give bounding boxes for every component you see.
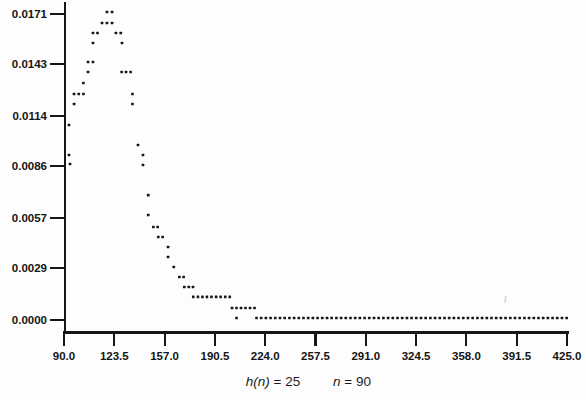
data-point <box>96 32 99 35</box>
data-point <box>523 317 526 320</box>
data-point <box>142 154 145 157</box>
data-point <box>485 317 488 320</box>
scan-speck-artifact <box>504 296 506 303</box>
data-point <box>167 246 170 249</box>
data-point <box>224 296 227 299</box>
data-point <box>344 317 347 320</box>
data-point <box>359 317 362 320</box>
data-point <box>228 296 231 299</box>
data-point <box>316 317 319 320</box>
data-point <box>244 307 247 310</box>
y-tick-label-0.0086: 0.0086 <box>12 160 47 172</box>
distribution-plot-figure: 0.01710.01430.01140.00860.00570.00290.00… <box>0 0 586 400</box>
data-point <box>215 296 218 299</box>
data-point <box>253 307 256 310</box>
data-point <box>495 317 498 320</box>
data-point <box>156 226 159 229</box>
data-point <box>373 317 376 320</box>
data-point <box>500 317 503 320</box>
y-tick-label-0.0114: 0.0114 <box>12 110 47 122</box>
x-tick-label-90.0: 90.0 <box>53 350 75 362</box>
data-point <box>504 317 507 320</box>
data-point <box>457 317 460 320</box>
data-point <box>415 317 418 320</box>
data-point <box>131 103 134 106</box>
data-point <box>147 194 150 197</box>
data-point <box>161 236 164 239</box>
data-point <box>92 42 95 45</box>
data-point <box>73 93 76 96</box>
data-point <box>87 71 90 74</box>
data-point <box>453 317 456 320</box>
data-point <box>279 317 282 320</box>
data-point <box>406 317 409 320</box>
data-point <box>187 286 190 289</box>
data-point <box>137 144 140 147</box>
data-point <box>467 317 470 320</box>
x-tick-label-190.5: 190.5 <box>201 350 230 362</box>
data-point <box>152 226 155 229</box>
data-point <box>377 317 380 320</box>
y-tick-label-0.0171: 0.0171 <box>12 8 48 20</box>
data-point <box>340 317 343 320</box>
data-point <box>514 317 517 320</box>
data-point <box>131 93 134 96</box>
data-point <box>111 11 114 14</box>
data-point <box>82 93 85 96</box>
x-tick-label-391.5: 391.5 <box>502 350 531 362</box>
data-point <box>235 307 238 310</box>
x-tick-label-358.0: 358.0 <box>452 350 481 362</box>
x-tick-label-257.5: 257.5 <box>301 350 330 362</box>
data-point <box>183 286 186 289</box>
scatter-chart: 0.01710.01430.01140.00860.00570.00290.00… <box>0 0 586 400</box>
data-point <box>326 317 329 320</box>
data-point <box>330 317 333 320</box>
data-point <box>219 296 222 299</box>
data-point <box>92 32 95 35</box>
y-tick-label-0.0029: 0.0029 <box>12 262 47 274</box>
data-point <box>121 42 124 45</box>
x-tick-label-224.0: 224.0 <box>251 350 280 362</box>
data-point <box>293 317 296 320</box>
data-point <box>206 296 209 299</box>
data-point <box>391 317 394 320</box>
data-point <box>249 307 252 310</box>
data-point <box>565 317 568 320</box>
y-tick-label-0.0000: 0.0000 <box>12 314 47 326</box>
data-point <box>255 317 258 320</box>
data-point <box>167 256 170 259</box>
data-point <box>297 317 300 320</box>
data-point <box>443 317 446 320</box>
data-point <box>490 317 493 320</box>
data-point <box>420 317 423 320</box>
data-point <box>260 317 263 320</box>
data-point <box>69 163 72 166</box>
data-point <box>120 71 123 74</box>
data-point <box>235 317 238 320</box>
data-point <box>481 317 484 320</box>
data-point <box>283 317 286 320</box>
data-point <box>106 11 109 14</box>
data-point <box>476 317 479 320</box>
data-point <box>73 103 76 106</box>
data-point <box>201 296 204 299</box>
data-point <box>77 93 80 96</box>
data-point <box>274 317 277 320</box>
data-point <box>462 317 465 320</box>
data-point <box>68 124 71 127</box>
data-point <box>87 61 90 64</box>
data-point <box>509 317 512 320</box>
x-tick-label-123.5: 123.5 <box>100 350 129 362</box>
data-point <box>147 214 150 217</box>
x-tick-label-324.5: 324.5 <box>402 350 431 362</box>
data-point <box>438 317 441 320</box>
data-point <box>106 22 109 25</box>
y-tick-label-0.0057: 0.0057 <box>12 212 47 224</box>
data-point <box>542 317 545 320</box>
data-point <box>382 317 385 320</box>
data-point <box>197 296 200 299</box>
x-tick-label-425.0: 425.0 <box>553 350 582 362</box>
data-point <box>240 307 243 310</box>
data-point <box>354 317 357 320</box>
data-point <box>231 307 234 310</box>
